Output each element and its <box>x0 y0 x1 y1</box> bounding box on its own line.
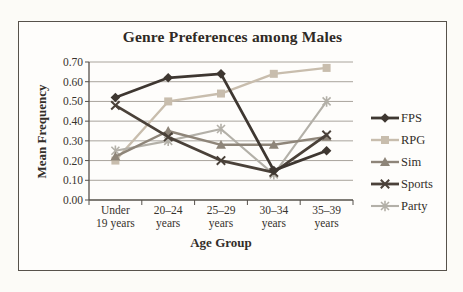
x-axis-title: Age Group <box>89 235 353 251</box>
legend-swatch-sports <box>371 177 399 191</box>
x-marker <box>111 101 119 109</box>
legend-label-party: Party <box>401 199 427 213</box>
diamond-marker <box>380 113 390 123</box>
legend-swatch-fps <box>371 111 399 125</box>
diamond-marker <box>322 146 332 156</box>
series-party <box>111 96 330 179</box>
legend-item-rpg: RPG <box>371 133 433 147</box>
legend-item-party: Party <box>371 199 433 213</box>
chart-frame: Genre Preferences among Males Mean Frequ… <box>18 21 447 271</box>
legend-label-rpg: RPG <box>401 133 425 147</box>
y-tick-label: 0.40 <box>37 115 83 127</box>
series-sports <box>111 101 331 176</box>
legend-item-fps: FPS <box>371 111 433 125</box>
legend-swatch-party <box>371 199 399 213</box>
legend-swatch-rpg <box>371 133 399 147</box>
series-rpg <box>111 64 330 165</box>
square-marker <box>217 90 225 98</box>
square-marker <box>164 97 172 105</box>
y-tick-label: 0.20 <box>37 155 83 167</box>
y-tick-label: 0.70 <box>37 56 83 68</box>
legend-swatch-sim <box>371 155 399 169</box>
legend-label-sports: Sports <box>401 177 433 191</box>
y-tick-label: 0.60 <box>37 76 83 88</box>
legend-item-sim: Sim <box>371 155 433 169</box>
legend-label-fps: FPS <box>401 111 422 125</box>
square-marker <box>270 70 278 78</box>
legend-label-sim: Sim <box>401 155 421 169</box>
square-marker <box>381 136 389 144</box>
square-marker <box>323 64 331 72</box>
y-tick-label: 0.30 <box>37 135 83 147</box>
y-tick-label: 0.50 <box>37 95 83 107</box>
diamond-marker <box>163 73 173 83</box>
x-tick-label: 35–39years <box>295 204 359 230</box>
y-tick-label: 0.10 <box>37 174 83 186</box>
legend: FPSRPGSimSportsParty <box>371 111 433 213</box>
legend-item-sports: Sports <box>371 177 433 191</box>
y-tick-label: 0.00 <box>37 194 83 206</box>
